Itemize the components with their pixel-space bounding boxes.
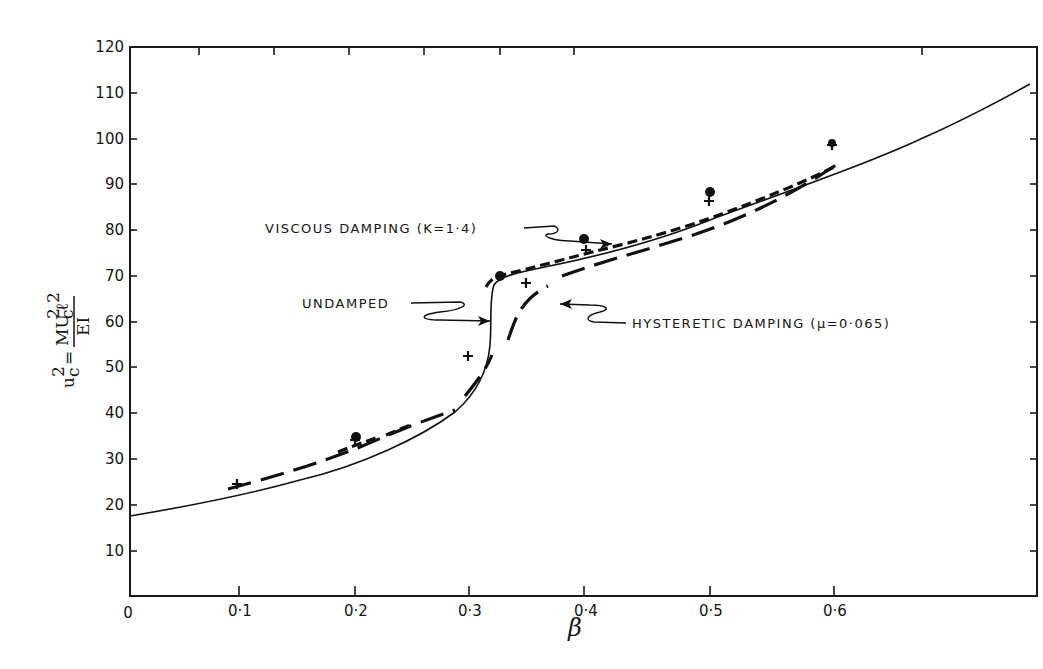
annotation-viscous: VISCOUS DAMPING (K=1·4) [265,221,477,236]
y-tick-label: 60 [105,313,124,331]
y-label-num-l-sup: 2 [43,292,63,303]
y-tick-label: 50 [105,358,124,376]
y-tick-label: 30 [105,450,124,468]
y-tick-label: 100 [95,130,124,148]
y-tick-labels: 120 110 100 90 80 70 60 50 40 30 20 10 [95,38,124,560]
y-tick-label: 70 [105,267,124,285]
y-label-num-l: ℓ [52,303,72,311]
x-tick-label: 0 [123,604,133,622]
x-tick-label: 0·1 [228,602,252,620]
annotation-hysteretic: HYSTERETIC DAMPING (μ=0·065) [632,316,890,331]
series-undamped [130,84,1030,516]
arrow-undamped [411,302,490,321]
y-tick-label: 10 [105,542,124,560]
x-tick-label: 0·3 [458,602,482,620]
y-tick-label: 40 [105,404,124,422]
x-tick-label: 0·6 [823,602,847,620]
x-tick-label: 0·5 [699,602,723,620]
y-tick-label: 20 [105,496,124,514]
viscous-markers [351,139,836,442]
y-label-denominator: EI [73,317,93,336]
annotation-undamped: UNDAMPED [302,296,389,311]
plot-frame [130,47,1037,596]
hysteretic-markers [232,140,837,489]
y-tick-label: 90 [105,175,124,193]
chart: 120 110 100 90 80 70 60 50 40 30 20 10 0… [0,0,1043,669]
y-label-lhs: u [58,377,78,388]
x-tick-labels: 0 0·1 0·2 0·3 0·4 0·5 0·6 [123,602,847,622]
y-label-lhs-sup: 2 [48,366,68,377]
x-axis-title: β [567,614,582,642]
y-tick-label: 80 [105,221,124,239]
x-tick-label: 0·2 [344,602,368,620]
y-axis-ticks [130,93,1037,551]
y-tick-label: 120 [95,38,124,56]
y-tick-label: 110 [95,84,124,102]
y-label-equals: = [58,351,78,365]
arrow-viscous [524,226,612,244]
y-axis-title: u c 2 = MU c 2 ℓ 2 EI [43,292,93,388]
